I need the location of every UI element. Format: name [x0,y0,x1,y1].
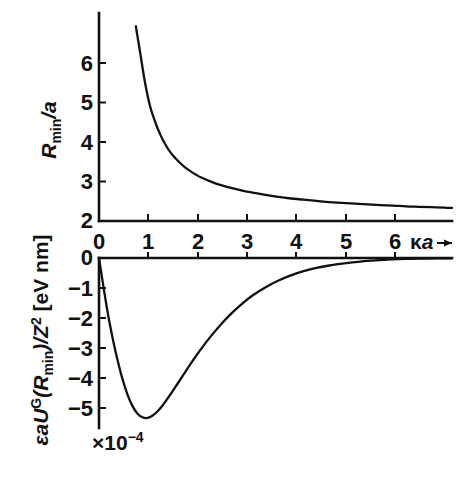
scale-mantissa: ×10 [92,431,128,454]
scale-annotation: ×10−4 [92,429,144,454]
top-ylabel-div: /a [37,101,60,120]
x-tick-labels: 0 1 2 3 4 5 6 [93,229,401,254]
bottom-ytick-label-m5: −5 [68,396,93,421]
bottom-ylabel-zexp: 2 [28,317,44,325]
bottom-ytick-label-m4: −4 [68,366,94,391]
bottom-y-axis-label: εaUG(Rmin)/Z2 [eV nm] [28,234,56,445]
x-axis-label: κa [410,230,452,253]
bottom-ylabel-argclose: )/Z [29,324,52,353]
top-y-axis-label: Rmin/a [37,101,64,159]
top-ytick-label-4: 4 [81,130,94,155]
bottom-ytick-label-0: 0 [81,245,93,270]
xtick-label-6: 6 [389,229,401,254]
xtick-label-0: 0 [93,229,105,254]
top-ytick-label-6: 6 [81,51,93,76]
xlabel-kappa: κ [410,230,422,253]
figure-container: 2 3 4 5 6 Rmin/a [0,0,464,481]
bottom-ytick-label-m2: −2 [68,306,93,331]
svg-text:κa: κa [410,230,434,253]
xtick-label-2: 2 [192,229,204,254]
bottom-panel-curve [99,258,452,418]
bottom-ylabel-sup: G [28,398,44,409]
top-panel-curve [136,26,452,208]
bottom-ytick-label-m1: −1 [68,276,93,301]
top-panel: 2 3 4 5 6 Rmin/a [37,13,452,233]
svg-text:Rmin/a: Rmin/a [37,101,64,159]
top-ylabel-main: R [37,143,60,159]
xlabel-a: a [422,230,434,253]
bottom-ylabel-argsub: min [40,351,56,376]
xtick-label-3: 3 [241,229,253,254]
bottom-ylabel-units: [eV nm] [29,234,52,317]
scale-exponent: −4 [128,429,144,445]
x-axis-arrow-head [444,240,452,247]
top-ytick-label-3: 3 [81,169,93,194]
xtick-label-1: 1 [142,229,154,254]
svg-text:εaUG(Rmin)/Z2 [eV nm]: εaUG(Rmin)/Z2 [eV nm] [28,234,56,445]
two-panel-chart: 2 3 4 5 6 Rmin/a [0,0,464,481]
bottom-ytick-label-m3: −3 [68,336,93,361]
top-ytick-label-5: 5 [81,90,93,115]
xtick-label-5: 5 [340,229,352,254]
xtick-label-4: 4 [290,229,303,254]
bottom-ylabel-argopen: (R [29,375,52,398]
bottom-panel: 0 −1 −2 −3 −4 −5 εaUG(Rmin)/Z2 [eV nm] ×… [28,234,452,454]
top-ylabel-sub: min [48,119,64,144]
bottom-ylabel-prefix: εaU [29,408,52,446]
top-ytick-label-2: 2 [81,208,93,233]
